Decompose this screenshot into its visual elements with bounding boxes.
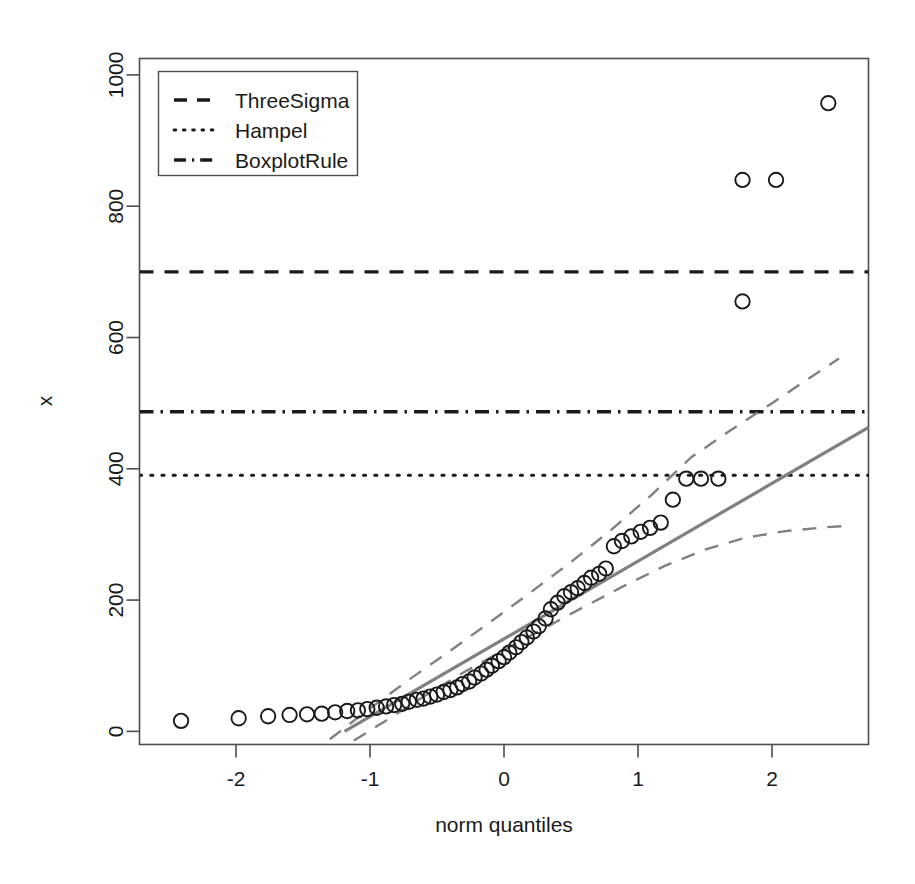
x-tick-label: 1 <box>632 767 644 790</box>
legend-label-threesigma: ThreeSigma <box>235 89 350 112</box>
x-axis-title: norm quantiles <box>435 813 573 836</box>
y-tick-label: 600 <box>104 320 127 355</box>
y-tick-label: 800 <box>104 189 127 224</box>
data-point <box>694 471 708 485</box>
x-tick-label: -2 <box>227 767 246 790</box>
y-tick-label: 1000 <box>104 52 127 99</box>
legend-label-hampel: Hampel <box>235 119 307 142</box>
data-point <box>315 706 329 720</box>
qq-reference-line <box>345 427 869 731</box>
x-tick-label: -1 <box>361 767 380 790</box>
qq-reference-line <box>345 427 869 731</box>
data-point <box>300 707 314 721</box>
data-point <box>261 709 275 723</box>
y-axis-title: x <box>33 395 56 406</box>
data-point <box>679 471 693 485</box>
data-point <box>735 294 749 308</box>
legend-label-boxplotrule: BoxplotRule <box>235 149 348 172</box>
y-tick-label: 400 <box>104 451 127 486</box>
data-point <box>821 96 835 110</box>
legend: ThreeSigmaHampelBoxplotRule <box>159 72 358 176</box>
upper-confidence-band <box>330 359 839 740</box>
data-point <box>666 492 680 506</box>
plot-canvas: -2-1012 02004006008001000 norm quantiles… <box>0 0 915 884</box>
data-point <box>231 711 245 725</box>
qq-plot-figure: -2-1012 02004006008001000 norm quantiles… <box>0 0 915 884</box>
y-axis-ticks: 02004006008001000 <box>104 52 139 738</box>
data-point <box>174 714 188 728</box>
data-point <box>769 173 783 187</box>
data-point <box>282 708 296 722</box>
data-point <box>735 173 749 187</box>
data-point <box>711 471 725 485</box>
y-tick-label: 200 <box>104 583 127 618</box>
x-tick-label: 2 <box>766 767 778 790</box>
confidence-bands <box>330 359 846 741</box>
y-tick-label: 0 <box>104 726 127 738</box>
x-tick-label: 0 <box>498 767 510 790</box>
outlier-rule-lines <box>140 272 869 476</box>
lower-confidence-band <box>354 526 846 741</box>
x-axis-ticks: -2-1012 <box>227 745 778 790</box>
